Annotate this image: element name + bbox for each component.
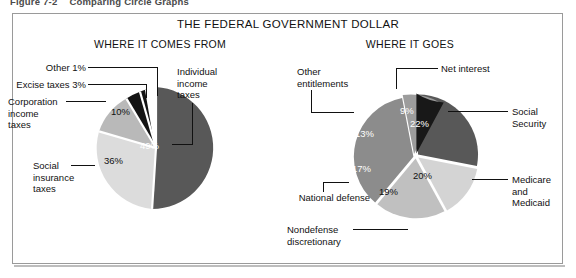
leader-net-interest-vert — [396, 68, 397, 89]
leader-medicare — [472, 179, 508, 180]
leader-individual-vert — [192, 103, 193, 145]
leader-corporation — [66, 101, 106, 102]
figure-frame-shadow — [14, 265, 565, 267]
leader-excise-taxes-vert — [146, 84, 147, 98]
panel-title-where-it-goes: WHERE IT GOES — [330, 38, 490, 50]
leader-social-insurance — [71, 165, 95, 166]
page-title: THE FEDERAL GOVERNMENT DOLLAR — [0, 18, 576, 30]
leader-other-revenue — [88, 67, 157, 68]
slice-value-social-security: 22% — [410, 118, 429, 129]
leader-other-revenue-vert — [157, 67, 158, 96]
label-other-entitlements: Other entitlements — [297, 66, 359, 89]
figure-number: Figure 7-2 — [10, 0, 57, 7]
leader-individual-horiz — [172, 144, 193, 145]
leader-national-defense-horiz — [323, 182, 349, 183]
label-national-defense: National defense — [286, 192, 370, 204]
slice-value-individual: 49% — [140, 140, 159, 151]
slice-value-nondefense: 19% — [379, 186, 398, 197]
label-other-revenue: Other 1% — [8, 62, 86, 74]
leader-other-entitlements-horiz — [311, 112, 354, 113]
leader-net-interest-horiz — [396, 68, 438, 69]
leader-other-entitlements-vert — [311, 90, 312, 112]
pie-right-slices — [354, 93, 478, 218]
label-net-interest: Net interest — [441, 63, 490, 75]
leader-national-defense-vert — [323, 182, 324, 192]
label-social-security: Social Security — [512, 106, 570, 129]
label-medicare-medicaid: Medicare and Medicaid — [512, 174, 572, 209]
leader-social-security — [448, 111, 508, 112]
slice-value-other-entitlements: 13% — [355, 128, 374, 139]
panel-title-comes-from: WHERE IT COMES FROM — [60, 38, 260, 50]
figure-caption: Figure 7-2Comparing Circle Graphs — [10, 0, 189, 7]
slice-individual-income-taxes — [152, 87, 213, 209]
slice-value-medicare: 20% — [413, 170, 432, 181]
slice-value-corporation: 10% — [111, 106, 130, 117]
slice-value-net-interest: 9% — [400, 105, 414, 116]
leader-nondefense — [353, 229, 408, 230]
label-individual-income-taxes: Individual income taxes — [177, 66, 243, 101]
label-nondefense-discretionary: Nondefense discretionary — [287, 224, 369, 247]
leader-excise-taxes — [88, 84, 146, 85]
slice-value-social-insurance: 36% — [104, 155, 123, 166]
figure-caption-text: Comparing Circle Graphs — [69, 0, 189, 7]
label-excise-taxes: Excise taxes 3% — [2, 79, 86, 91]
slice-value-national-defense: 17% — [352, 163, 371, 174]
